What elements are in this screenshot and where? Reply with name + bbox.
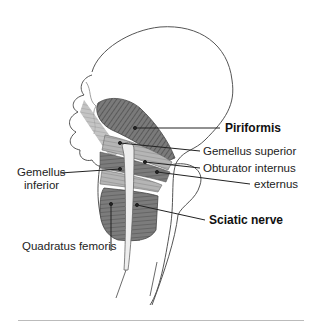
label-obturator-internus: Obturator internus [203, 162, 296, 175]
label-sciatic-nerve: Sciatic nerve [209, 214, 283, 227]
label-gemellus-inferior-1: Gemellus [17, 166, 66, 179]
label-gemellus-superior: Gemellus superior [203, 145, 296, 158]
label-quadratus-femoris: Quadratus femoris [22, 240, 117, 253]
bottom-divider [18, 320, 304, 321]
label-externus: externus [254, 178, 298, 191]
label-piriformis: Piriformis [225, 122, 281, 135]
label-gemellus-inferior-2: inferior [24, 179, 59, 192]
